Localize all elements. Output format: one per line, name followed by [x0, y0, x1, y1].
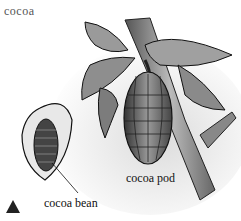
leaf-icon: [85, 22, 128, 52]
figure-title: cocoa: [4, 4, 34, 19]
cocoa-drawing: [0, 0, 241, 221]
cocoa-bean-icon: [34, 119, 58, 171]
label-cocoa-bean: cocoa bean: [44, 196, 98, 211]
triangle-icon: [6, 200, 20, 213]
cocoa-illustration: cocoa cocoa bean cocoa pod: [0, 0, 241, 221]
leaf-icon: [145, 39, 232, 66]
label-cocoa-pod: cocoa pod: [126, 171, 175, 186]
